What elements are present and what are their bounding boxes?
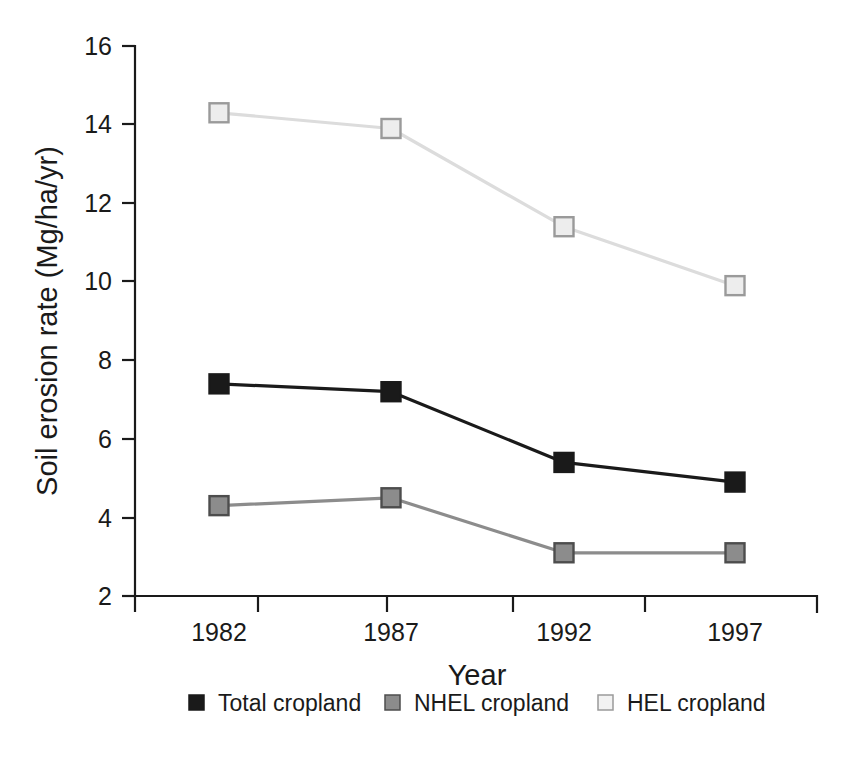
y-tick-label-12: 12 (84, 189, 112, 217)
series-layer (210, 103, 745, 562)
chart-page: 16 14 12 10 8 6 4 2 1982 1987 1992 1997 … (0, 0, 860, 758)
x-tick-label-1987: 1987 (363, 618, 419, 646)
x-axis-ticks (135, 596, 645, 612)
legend-label-nhel-cropland: NHEL cropland (414, 690, 569, 716)
data-point-hel-cropland-1982 (210, 103, 229, 122)
y-tick-label-8: 8 (98, 346, 112, 374)
data-point-total-cropland-1987 (382, 382, 401, 401)
y-tick-label-10: 10 (84, 267, 112, 295)
y-tick-label-4: 4 (98, 504, 112, 532)
x-axis-line (135, 596, 817, 612)
legend-label-total-cropland: Total cropland (218, 690, 361, 716)
data-point-total-cropland-1992 (555, 453, 574, 472)
y-tick-label-14: 14 (84, 110, 112, 138)
series-line-nhel-cropland (219, 498, 735, 553)
y-tick-label-2: 2 (98, 582, 112, 610)
data-point-hel-cropland-1997 (726, 276, 745, 295)
x-tick-label-1982: 1982 (191, 618, 247, 646)
y-tick-label-6: 6 (98, 425, 112, 453)
series-hel-cropland (210, 103, 745, 295)
legend-label-hel-cropland: HEL cropland (627, 690, 766, 716)
series-total-cropland (210, 374, 745, 491)
legend-marker-nhel-cropland (385, 695, 400, 710)
legend-marker-hel-cropland (598, 695, 613, 710)
data-point-total-cropland-1997 (726, 473, 745, 492)
y-axis-title: Soil erosion rate (Mg/ha/yr) (31, 146, 63, 496)
x-axis-title: Year (448, 659, 507, 691)
chart-legend: Total cropland NHEL cropland HEL croplan… (189, 690, 766, 716)
data-point-nhel-cropland-1992 (555, 543, 574, 562)
x-tick-label-1997: 1997 (707, 618, 763, 646)
series-nhel-cropland (210, 488, 745, 562)
y-axis-ticks (122, 46, 135, 596)
data-point-hel-cropland-1992 (555, 217, 574, 236)
data-point-hel-cropland-1987 (382, 119, 401, 138)
series-line-hel-cropland (219, 113, 735, 286)
data-point-nhel-cropland-1997 (726, 543, 745, 562)
legend-marker-total-cropland (189, 695, 204, 710)
data-point-nhel-cropland-1987 (382, 488, 401, 507)
series-line-total-cropland (219, 384, 735, 482)
y-tick-label-16: 16 (84, 32, 112, 60)
soil-erosion-line-chart: 16 14 12 10 8 6 4 2 1982 1987 1992 1997 … (0, 0, 860, 758)
y-axis-tick-labels: 16 14 12 10 8 6 4 2 (84, 32, 112, 610)
data-point-nhel-cropland-1982 (210, 496, 229, 515)
x-axis-tick-labels: 1982 1987 1992 1997 (191, 618, 763, 646)
data-point-total-cropland-1982 (210, 374, 229, 393)
x-tick-label-1992: 1992 (536, 618, 592, 646)
